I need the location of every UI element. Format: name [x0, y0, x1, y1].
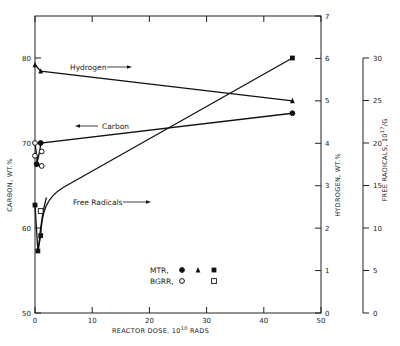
- hydrogen-tick-label: 6: [325, 55, 330, 63]
- carbon-tick-label: 50: [22, 310, 31, 318]
- marker-square-open: [212, 279, 217, 284]
- arrowhead-icon: [127, 65, 132, 69]
- hydrogen-tick-label: 4: [325, 140, 330, 148]
- marker-square-filled: [38, 233, 43, 238]
- free-radicals-tick-label: 30: [373, 55, 382, 63]
- annotation-carbon: Carbon: [102, 122, 129, 131]
- arrowhead-icon: [75, 124, 80, 128]
- x-axis-label: REACTOR DOSE, 1010 RADS: [112, 325, 209, 335]
- free-radicals-tick-label: 10: [373, 225, 382, 233]
- x-tick-label: 10: [88, 317, 97, 325]
- plot-frame: [35, 16, 321, 313]
- hydrogen-tick-label: 0: [325, 310, 329, 318]
- carbon-tick-label: 60: [22, 225, 31, 233]
- x-tick-label: 40: [259, 317, 268, 325]
- marker-square-filled: [212, 268, 217, 273]
- free-radicals-line: [35, 58, 292, 251]
- axes: 010203040505060708001234567051015202530: [22, 13, 382, 326]
- hydrogen-tick-label: 7: [325, 13, 329, 21]
- free-radicals-tick-label: 0: [373, 310, 377, 318]
- legend: MTR,BGRR,: [150, 266, 216, 286]
- x-tick-label: 50: [317, 317, 326, 325]
- hydrogen-tick-label: 5: [325, 97, 329, 105]
- carbon-tick-label: 80: [22, 55, 31, 63]
- marker-square-filled: [33, 203, 38, 208]
- carbon-line: [35, 113, 292, 164]
- marker-circle-open: [180, 279, 185, 284]
- carbon-tick-label: 70: [22, 140, 31, 148]
- legend-label: BGRR,: [150, 277, 174, 286]
- marker-square-filled: [290, 56, 295, 61]
- hydrogen-tick-label: 1: [325, 267, 329, 275]
- x-tick-label: 0: [33, 317, 37, 325]
- hydrogen-tick-label: 3: [325, 182, 329, 190]
- marker-circle-filled: [34, 162, 39, 167]
- free-radicals-axis-label: FREE RADICALS, 1017/G: [379, 118, 389, 201]
- x-tick-label: 30: [202, 317, 211, 325]
- marker-circle-filled: [290, 111, 295, 116]
- marker-circle-open: [33, 141, 38, 146]
- marker-circle-filled: [38, 141, 43, 146]
- annotation-hydrogen: Hydrogen: [70, 63, 107, 72]
- annotation-free-radicals: Free Radicals: [73, 198, 123, 207]
- marker-square-open: [38, 209, 43, 214]
- legend-label: MTR,: [150, 266, 169, 275]
- hydrogen-tick-label: 2: [325, 225, 329, 233]
- x-tick-label: 20: [145, 317, 154, 325]
- arrowhead-icon: [146, 200, 151, 204]
- marker-circle-open: [39, 149, 44, 154]
- marker-square-filled: [35, 249, 40, 254]
- series: [33, 56, 295, 254]
- marker-circle-filled: [180, 268, 185, 273]
- marker-triangle-filled: [196, 267, 201, 272]
- marker-circle-open: [33, 153, 38, 158]
- chart: 010203040505060708001234567051015202530 …: [0, 0, 400, 346]
- hydrogen-axis-label: HYDROGEN, WT.%: [334, 153, 342, 217]
- free-radicals-tick-label: 5: [373, 267, 377, 275]
- free-radicals-tick-label: 25: [373, 97, 382, 105]
- carbon-axis-label: CARBON, WT.%: [6, 158, 14, 211]
- series-free-radicals-bgrr: [38, 209, 43, 214]
- marker-circle-open: [39, 164, 44, 169]
- marker-triangle-filled: [33, 62, 38, 67]
